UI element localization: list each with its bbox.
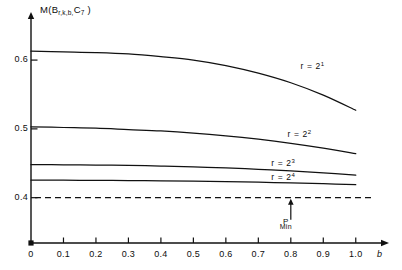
x-tick-label: 0.6 [218,249,234,259]
x-tick-label: 0.1 [55,249,71,259]
y-tick-label: 0.6 [6,54,28,64]
series-label-exponent: 2 [308,130,312,136]
series-label-base: r = 2 [301,61,321,71]
x-tick-label: 0.5 [185,249,201,259]
series-label-base: r = 2 [288,129,308,139]
series-label-2: r = 22 [288,129,312,139]
x-tick-label: 0.7 [250,249,266,259]
x-tick-label: 0.8 [283,249,299,259]
origin-marker [28,240,33,245]
series-label-exponent: 1 [321,61,325,67]
series-label-4: r = 24 [271,172,295,182]
series-curve-4 [31,180,356,184]
y-axis-title: M(Br,k,b,C7 ) [40,4,91,16]
y-tick-label: 0.5 [6,123,28,133]
plot-canvas [0,0,402,270]
series-label-1: r = 21 [301,61,325,71]
x-axis-arrow-icon [381,240,389,246]
y-axis-title-main: M(B [40,4,58,15]
pmin-annotation: PMin [275,218,297,231]
pmin-sublabel: Min [275,224,297,231]
series-label-base: r = 2 [271,158,291,168]
x-tick-label: 0.3 [120,249,136,259]
pmin-arrow-head-icon [288,199,294,205]
x-tick-label: 0 [23,249,39,259]
y-axis-title-close: ) [85,4,91,15]
series-label-base: r = 2 [271,172,291,182]
series-label-exponent: 4 [292,173,296,179]
y-tick-label: 0.4 [6,192,28,202]
x-tick-label: 0.9 [315,249,331,259]
series-label-3: r = 23 [271,158,295,168]
figure-plot: M(Br,k,b,C7 ) b PMin 00.10.20.30.40.50.6… [0,0,402,270]
y-axis-title-c: C [74,4,81,15]
x-tick-label: 0.2 [88,249,104,259]
x-tick-label: 1.0 [348,249,364,259]
series-label-exponent: 3 [292,159,296,165]
x-tick-label: 0.4 [153,249,169,259]
y-axis-title-sub-rkb: r,k,b, [58,9,73,16]
series-curve-3 [31,165,356,175]
y-axis-arrow-icon [28,12,34,19]
x-axis-symbol: b [377,249,382,259]
